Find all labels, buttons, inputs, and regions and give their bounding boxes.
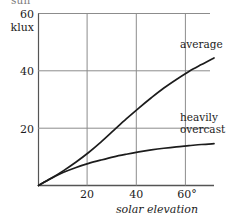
x-tick-label-60: 60° [177,188,197,201]
x-tick-label-20: 20 [80,188,94,201]
series-label-overcast-line1: heavily [180,111,218,123]
curve-heavily-overcast [39,144,215,186]
series-label-overcast-line2: overcast [180,123,226,135]
y-tick-label-40: 40 [20,65,34,78]
series-label-average: average [180,38,223,50]
y-tick-label-20: 20 [20,123,34,136]
x-axis-title: solar elevation [116,203,198,216]
x-tick-label-40: 40 [129,188,143,201]
chart-figure: sun 60 klux 40 20 20 40 60° [0,0,228,221]
y-axis-unit-label: klux [11,21,35,34]
illuminance-vs-solar-elevation-chart: 60 klux 40 20 20 40 60° solar elevation … [0,0,228,221]
y-tick-label-60: 60 [20,8,34,21]
